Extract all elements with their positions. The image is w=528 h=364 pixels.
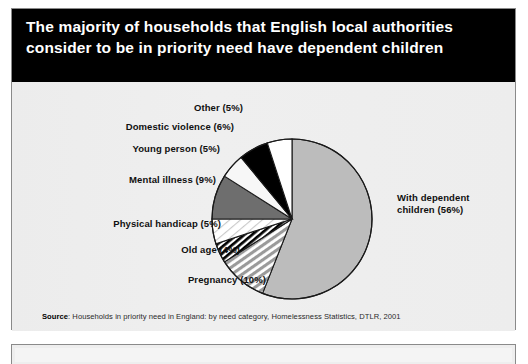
pie-label-with-dependent-children: With dependent children (56%) — [397, 192, 470, 216]
pie-label-young-person: Young person (5%) — [132, 143, 220, 155]
pie-label-mental-illness: Mental illness (9%) — [129, 174, 216, 186]
pie-label-physical-handicap: Physical handicap (5%) — [113, 218, 221, 230]
title-banner: The majority of households that English … — [12, 9, 515, 82]
source-value: : Households in priority need in England… — [68, 312, 401, 321]
figure-box: The majority of households that English … — [11, 8, 516, 330]
pie-label-domestic-violence: Domestic violence (6%) — [126, 121, 234, 133]
next-figure-box — [11, 344, 516, 364]
next-figure-box-inner — [15, 348, 512, 362]
page-title: The majority of households that English … — [26, 17, 501, 58]
pie-chart: Other (5%) Domestic violence (6%) Young … — [12, 82, 517, 306]
pie-label-wdc-line1: With dependent — [397, 192, 470, 203]
chart-panel: Other (5%) Domestic violence (6%) Young … — [12, 82, 515, 331]
pie-label-old-age: Old age (4%) — [181, 244, 240, 256]
pie-label-pregnancy: Pregnancy (10%) — [188, 274, 266, 286]
source-label: Source — [42, 312, 68, 321]
pie-label-wdc-line2: children (56%) — [397, 204, 463, 215]
source-note: Source: Households in priority need in E… — [12, 306, 515, 331]
pie-label-other: Other (5%) — [194, 102, 243, 114]
